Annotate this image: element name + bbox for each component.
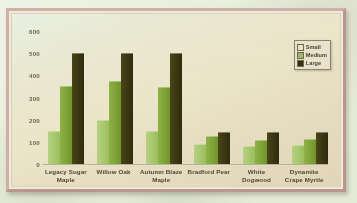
chart-frame: 600 500 400 300 200 100 0 Legacy Sugar M… xyxy=(6,8,346,192)
x-axis-line xyxy=(42,164,328,165)
legend-swatch-large-icon xyxy=(297,60,304,67)
x-axis-label: Willow Oak xyxy=(90,166,138,196)
y-tick-100: 100 xyxy=(29,138,40,145)
bar-large[interactable] xyxy=(316,132,328,164)
legend-swatch-small-icon xyxy=(297,44,304,51)
bar-small[interactable] xyxy=(97,120,109,164)
bar-small[interactable] xyxy=(146,131,158,164)
screenshot-page: 600 500 400 300 200 100 0 Legacy Sugar M… xyxy=(0,0,357,203)
bar-groups xyxy=(42,31,334,164)
legend-label-medium: Medium xyxy=(306,51,327,59)
x-axis-label: White Dogwood xyxy=(233,166,281,196)
x-axis-labels: Legacy Sugar MapleWillow OakAutumn Blaze… xyxy=(42,166,328,196)
bar-group xyxy=(139,31,188,164)
y-tick-300: 300 xyxy=(29,94,40,101)
legend-label-large: Large xyxy=(306,59,321,67)
bar-medium[interactable] xyxy=(109,81,121,164)
bar-small[interactable] xyxy=(243,146,255,164)
bar-medium[interactable] xyxy=(255,140,267,164)
bar-group xyxy=(91,31,140,164)
bar-group xyxy=(237,31,286,164)
bar-large[interactable] xyxy=(267,132,279,164)
legend-item-large[interactable]: Large xyxy=(297,59,327,67)
bar-small[interactable] xyxy=(194,144,206,164)
bar-medium[interactable] xyxy=(206,136,218,164)
legend-item-small[interactable]: Small xyxy=(297,43,327,51)
plot-area xyxy=(42,31,334,164)
y-axis: 600 500 400 300 200 100 0 xyxy=(12,31,42,164)
bar-medium[interactable] xyxy=(60,86,72,164)
x-axis-label: Bradford Pear xyxy=(185,166,233,196)
chart-frame-inner: 600 500 400 300 200 100 0 Legacy Sugar M… xyxy=(11,13,341,187)
bar-medium[interactable] xyxy=(158,87,170,164)
bar-medium[interactable] xyxy=(304,139,316,164)
chart-legend[interactable]: Small Medium Large xyxy=(294,40,331,70)
bar-group xyxy=(42,31,91,164)
bar-large[interactable] xyxy=(121,53,133,164)
bar-small[interactable] xyxy=(48,131,60,164)
y-tick-500: 500 xyxy=(29,50,40,57)
legend-label-small: Small xyxy=(306,43,321,51)
y-tick-0: 0 xyxy=(36,161,40,168)
legend-item-medium[interactable]: Medium xyxy=(297,51,327,59)
legend-swatch-medium-icon xyxy=(297,52,304,59)
bar-small[interactable] xyxy=(292,145,304,164)
bar-group xyxy=(188,31,237,164)
y-tick-200: 200 xyxy=(29,116,40,123)
x-axis-label: Legacy Sugar Maple xyxy=(42,166,90,196)
y-tick-400: 400 xyxy=(29,72,40,79)
bar-large[interactable] xyxy=(170,53,182,164)
bar-large[interactable] xyxy=(72,53,84,164)
x-axis-label: Autumn Blaze Maple xyxy=(137,166,185,196)
bar-chart: 600 500 400 300 200 100 0 Legacy Sugar M… xyxy=(12,14,340,186)
bar-large[interactable] xyxy=(218,132,230,164)
x-axis-label: Dynamite Crape Myrtle xyxy=(280,166,328,196)
y-tick-600: 600 xyxy=(29,28,40,35)
